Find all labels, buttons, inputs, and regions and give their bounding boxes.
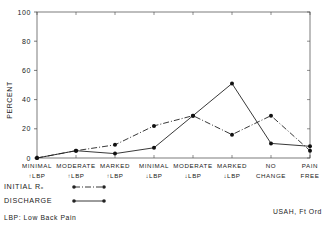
legend: INITIAL Rₓ DISCHARGE (4, 182, 106, 205)
category-sublabel: ↓LBP (223, 172, 240, 179)
category-sublabel: ↑LBP (67, 172, 84, 179)
data-point (269, 141, 273, 145)
data-point (113, 152, 117, 156)
category-sublabel: ↓LBP (184, 172, 201, 179)
category-label: PAIN (302, 162, 318, 169)
category-label: MARKED (217, 162, 247, 169)
series-lines (35, 82, 312, 160)
category-label: MINIMAL (22, 162, 52, 169)
data-point (35, 156, 39, 160)
legend-initial-label: INITIAL Rₓ (4, 182, 44, 191)
category-sublabel: ↓LBP (145, 172, 162, 179)
category-label: MARKED (100, 162, 130, 169)
series-line (37, 116, 310, 158)
data-point (152, 146, 156, 150)
category-labels: MINIMAL↑LBPMODERATE↑LBPMARKED↑LBPMINIMAL… (22, 162, 319, 179)
data-point (269, 114, 273, 118)
category-sublabel: ↑LBP (106, 172, 123, 179)
y-tick-label: 0 (27, 155, 32, 162)
category-label: MINIMAL (139, 162, 169, 169)
line-chart: 020406080100 MINIMAL↑LBPMODERATE↑LBPMARK… (0, 0, 325, 228)
data-point (308, 144, 312, 148)
data-point (230, 133, 234, 137)
y-axis-label: PERCENT (6, 81, 13, 119)
data-point (230, 82, 234, 86)
legend-discharge-label: DISCHARGE (4, 196, 52, 205)
data-point (74, 149, 78, 153)
y-tick-label: 80 (22, 38, 31, 45)
category-sublabel: CHANGE (256, 172, 286, 179)
source-note: USAH, Ft Ord (273, 208, 322, 215)
y-tick-label: 20 (22, 125, 31, 132)
data-point (152, 124, 156, 128)
data-point (191, 114, 195, 118)
category-label: NO (266, 162, 276, 169)
y-tick-label: 40 (22, 96, 31, 103)
abbreviation-note: LBP: Low Back Pain (4, 214, 76, 221)
y-tick-label: 100 (18, 9, 31, 16)
series-line (37, 84, 310, 158)
data-point (308, 149, 312, 153)
y-tick-label: 60 (22, 67, 31, 74)
category-sublabel: ↑LBP (28, 172, 45, 179)
data-point (113, 143, 117, 147)
category-label: MODERATE (173, 162, 212, 169)
category-label: MODERATE (56, 162, 95, 169)
axes: 020406080100 (18, 9, 310, 162)
category-sublabel: FREE (301, 172, 320, 179)
